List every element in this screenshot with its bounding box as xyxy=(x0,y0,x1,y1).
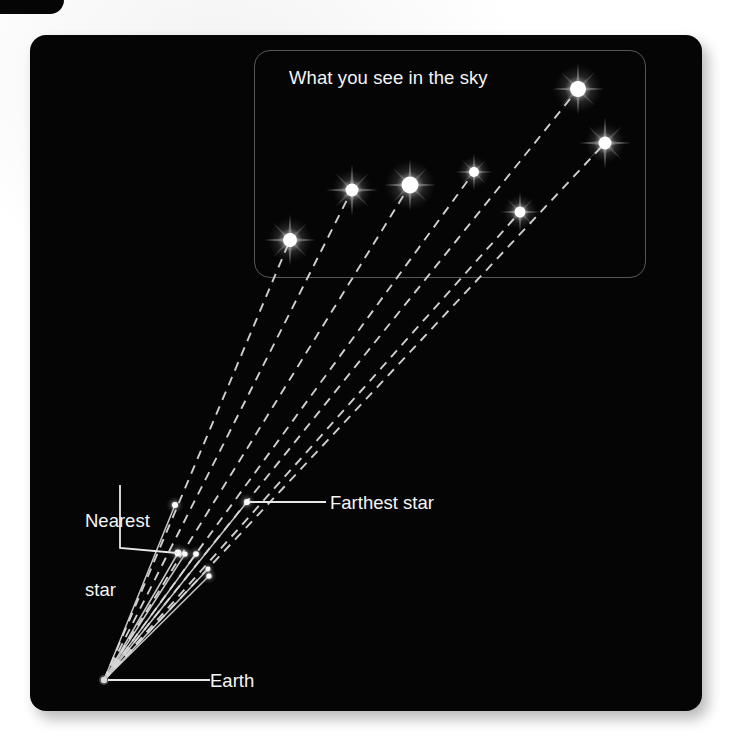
star-glyph xyxy=(384,159,436,211)
label-nearest-star-line1: Nearest xyxy=(85,509,150,532)
actual-stars-group xyxy=(166,493,256,584)
astronomy-diagram-panel: What you see in the sky xyxy=(30,35,702,711)
apparent-stars-group xyxy=(264,63,631,266)
star-glyph xyxy=(264,214,316,266)
star-glyph xyxy=(326,164,378,216)
label-earth: Earth xyxy=(210,669,254,692)
star-glyph-nearest xyxy=(166,496,184,514)
label-nearest-star: Nearest star xyxy=(85,463,150,647)
star-glyph xyxy=(500,192,541,233)
sight-line xyxy=(104,212,520,680)
star-glyph xyxy=(552,63,604,115)
star-glyph xyxy=(188,546,204,562)
sight-line xyxy=(104,185,410,680)
star-glyph xyxy=(455,153,492,190)
earth-marker xyxy=(99,675,109,685)
label-farthest-star: Farthest star xyxy=(330,491,434,514)
star-glyph xyxy=(201,568,217,584)
corner-tab-decoration xyxy=(0,0,64,14)
label-nearest-star-line2: star xyxy=(85,578,150,601)
